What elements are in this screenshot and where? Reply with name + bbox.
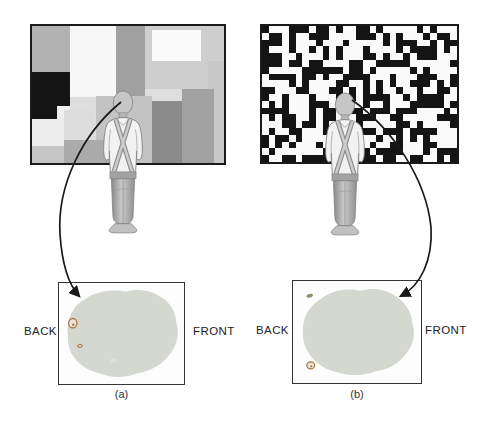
noise-cell [396,94,403,101]
noise-cell [343,60,350,67]
noise-cell [410,128,417,135]
noise-cell [309,121,316,128]
noise-cell [403,121,410,128]
noise-cell [430,80,437,87]
noise-cell [302,33,309,40]
noise-cell [376,108,383,115]
noise-cell [383,87,390,94]
noise-cell [343,40,350,47]
activation-spot-b1 [306,293,313,298]
noise-cell [269,101,276,108]
noise-cell [376,33,383,40]
noise-cell [302,101,309,108]
noise-cell [289,74,296,81]
noise-cell [343,46,350,53]
noise-cell [329,60,336,67]
noise-cell [309,80,316,87]
noise-cell [430,53,437,60]
noise-cell [444,40,451,47]
noise-cell [275,60,282,67]
noise-cell [430,155,437,162]
noise-cell [275,148,282,155]
noise-cell [403,67,410,74]
person-observer-b [316,92,374,240]
noise-cell [437,155,444,162]
noise-cell [396,67,403,74]
noise-cell [403,26,410,33]
noise-cell [376,60,383,67]
noise-cell [343,53,350,60]
noise-cell [370,33,377,40]
noise-cell [430,114,437,121]
noise-cell [349,60,356,67]
noise-cell [282,142,289,149]
noise-cell [430,128,437,135]
noise-cell [289,80,296,87]
noise-cell [444,53,451,60]
noise-cell [269,26,276,33]
noise-cell [275,53,282,60]
noise-cell [403,94,410,101]
noise-cell [370,40,377,47]
noise-cell [269,128,276,135]
noise-cell [410,80,417,87]
noise-cell [437,142,444,149]
noise-cell [262,142,269,149]
noise-cell [430,121,437,128]
noise-cell [376,101,383,108]
noise-cell [275,101,282,108]
noise-cell [289,46,296,53]
noise-cell [363,26,370,33]
noise-cell [336,67,343,74]
noise-cell [450,148,457,155]
noise-cell [275,40,282,47]
noise-cell [275,67,282,74]
noise-cell [289,155,296,162]
noise-cell [329,46,336,53]
noise-cell [323,26,330,33]
brain-scan-b-image [293,281,421,383]
noise-cell [282,46,289,53]
noise-cell [262,60,269,67]
noise-cell [343,33,350,40]
noise-cell [403,87,410,94]
noise-cell [410,67,417,74]
noise-cell [336,26,343,33]
noise-cell [376,94,383,101]
noise-cell [289,60,296,67]
noise-cell [336,46,343,53]
noise-cell [376,121,383,128]
noise-cell [363,80,370,87]
noise-cell [282,33,289,40]
noise-cell [390,74,397,81]
noise-cell [269,46,276,53]
noise-cell [370,53,377,60]
noise-cell [269,135,276,142]
noise-cell [282,121,289,128]
noise-cell [282,74,289,81]
noise-cell [390,60,397,67]
noise-cell [302,80,309,87]
noise-cell [450,40,457,47]
noise-cell [296,114,303,121]
noise-cell [437,33,444,40]
noise-cell [410,26,417,33]
noise-cell [430,101,437,108]
mondrian-block [152,101,182,163]
noise-cell [410,33,417,40]
noise-cell [383,114,390,121]
noise-cell [316,60,323,67]
noise-cell [329,33,336,40]
noise-cell [269,40,276,47]
noise-cell [383,80,390,87]
noise-cell [275,94,282,101]
noise-cell [289,148,296,155]
noise-cell [444,128,451,135]
noise-cell [376,128,383,135]
noise-cell [410,94,417,101]
noise-cell [309,60,316,67]
noise-cell [302,148,309,155]
noise-cell [262,46,269,53]
noise-cell [403,155,410,162]
noise-cell [302,135,309,142]
